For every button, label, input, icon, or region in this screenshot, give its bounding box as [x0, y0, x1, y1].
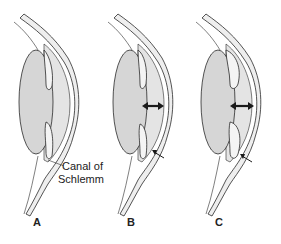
callout-canal-line2: Schlemm — [58, 173, 104, 185]
panel-label-a: A — [33, 216, 41, 228]
callout-canal-line1: Canal of — [62, 160, 104, 172]
eye-accommodation-diagram: Canal of Schlemm A B C — [0, 0, 281, 244]
panel-a — [14, 14, 79, 216]
panel-label-c: C — [215, 216, 223, 228]
panel-b — [108, 14, 173, 216]
panel-label-b: B — [127, 216, 135, 228]
panel-c — [196, 14, 261, 216]
